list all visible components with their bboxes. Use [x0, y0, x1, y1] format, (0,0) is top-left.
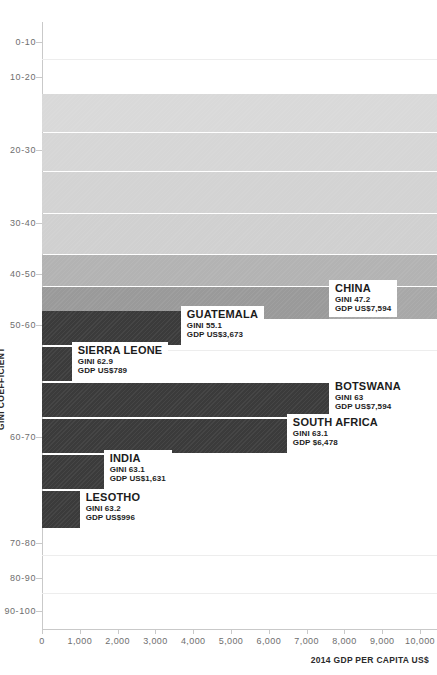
callout-gdp-value: GDP US$7,594 [335, 402, 401, 411]
y-axis-title: GINI COEFFICIENT [0, 347, 6, 430]
callout-gini-value: GINI 62.9 [78, 357, 163, 366]
x-axis-tick-label: 1,000 [68, 636, 93, 646]
callout-botswana: BOTSWANAGINI 63GDP US$7,594 [329, 378, 407, 415]
callout-country-name: INDIA [110, 452, 166, 465]
callout-gdp-value: GDP $6,478 [293, 438, 378, 447]
y-axis-tick-label: 60-70 [0, 432, 36, 442]
y-axis-tick-label: 50-60 [0, 320, 36, 330]
y-axis-tick-label: 30-40 [0, 218, 36, 228]
callout-lesotho: LESOTHOGINI 63.2GDP US$996 [80, 489, 147, 526]
gini-gdp-bar-chart: 0-1010-2020-3030-4040-5050-6060-7070-808… [0, 0, 437, 675]
x-axis-tick-label: 9,000 [370, 636, 395, 646]
x-axis-tick-label: 8,000 [332, 636, 357, 646]
x-axis-tick-label: 5,000 [219, 636, 244, 646]
callout-gini-value: GINI 63 [335, 393, 401, 402]
callout-gdp-value: GDP US$7,594 [335, 304, 391, 313]
callout-gini-value: GINI 63.1 [110, 465, 166, 474]
x-axis-tick-label: 4,000 [181, 636, 206, 646]
callout-gdp-value: GDP US$789 [78, 366, 163, 375]
x-axis-tick-label: 0 [39, 636, 44, 646]
x-axis-tick-label: 7,000 [294, 636, 319, 646]
callout-country-name: GUATEMALA [187, 308, 258, 321]
callout-gini-value: GINI 63.2 [86, 504, 141, 513]
callout-sierra-leone: SIERRA LEONEGINI 62.9GDP US$789 [72, 342, 169, 379]
y-axis-tick-label: 70-80 [0, 538, 36, 548]
y-axis-tick-label: 0-10 [0, 37, 36, 47]
x-axis-tick-label: 10,000 [405, 636, 435, 646]
callout-india: INDIAGINI 63.1GDP US$1,631 [104, 450, 172, 487]
callout-guatemala: GUATEMALAGINI 55.1GDP US$3,673 [181, 306, 264, 343]
callout-gdp-value: GDP US$3,673 [187, 330, 258, 339]
callout-south-africa: SOUTH AFRICAGINI 63.1GDP $6,478 [287, 414, 384, 451]
y-axis-tick-label: 80-90 [0, 573, 36, 583]
callout-country-name: SIERRA LEONE [78, 344, 163, 357]
callout-china: CHINAGINI 47.2GDP US$7,594 [329, 280, 397, 317]
callout-gini-value: GINI 55.1 [187, 321, 258, 330]
callout-gini-value: GINI 47.2 [335, 295, 391, 304]
x-axis-title: 2014 GDP PER CAPITA US$ [311, 655, 429, 665]
callout-country-name: CHINA [335, 282, 391, 295]
y-axis-tick-label: 40-50 [0, 269, 36, 279]
callout-gdp-value: GDP US$1,631 [110, 474, 166, 483]
callout-country-name: LESOTHO [86, 491, 141, 504]
y-axis-tick-label: 10-20 [0, 72, 36, 82]
y-axis-tick-label: 90-100 [0, 606, 36, 616]
y-axis-tick-label: 20-30 [0, 145, 36, 155]
callout-gdp-value: GDP US$996 [86, 513, 141, 522]
x-axis-tick-label: 6,000 [257, 636, 282, 646]
callout-gini-value: GINI 63.1 [293, 429, 378, 438]
x-axis-tick-label: 2,000 [105, 636, 130, 646]
x-axis-tick-label: 3,000 [143, 636, 168, 646]
callout-country-name: SOUTH AFRICA [293, 416, 378, 429]
callout-country-name: BOTSWANA [335, 380, 401, 393]
